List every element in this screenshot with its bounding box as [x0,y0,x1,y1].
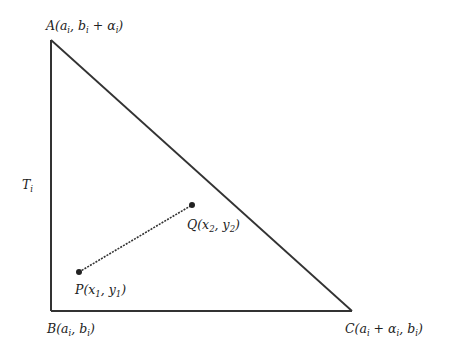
vertex-c-label: C(ai + αi, bi) [345,321,423,338]
triangle-diagram: A(ai, bi + αi) Ti Q(x2, y2) P(x1, y1) B(… [0,0,459,355]
segment-pq [79,205,192,272]
vertex-a-label: A(ai, bi + αi) [45,18,123,35]
triangle-name-label: Ti [22,177,33,194]
point-q-dot [189,202,195,208]
triangle-edge-ac [51,40,352,311]
point-p-label: P(x1, y1) [74,282,126,299]
vertex-b-label: B(ai, bi) [46,321,95,338]
point-p-dot [76,269,82,275]
point-q-label: Q(x2, y2) [187,217,240,234]
